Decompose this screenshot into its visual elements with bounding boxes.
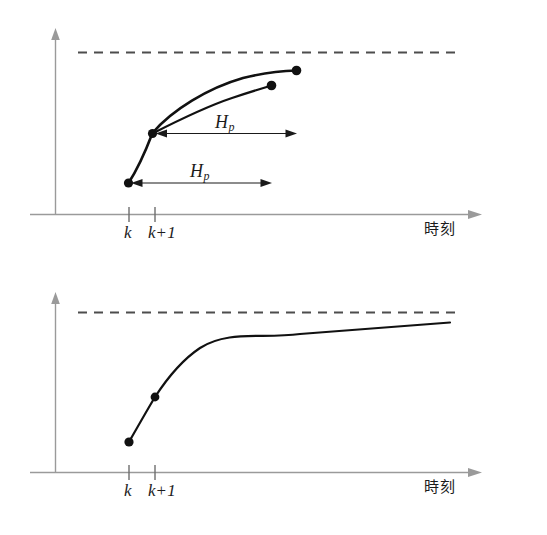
upper-horizon-subscript-top: p [228, 120, 235, 134]
upper-horizon-arrowhead-right-bottom [261, 179, 273, 187]
upper-x-axis-arrowhead [468, 210, 482, 219]
upper-horizon-arrowhead-right-top [286, 130, 298, 138]
lower-tick-k-plus-1-lhs: k [148, 481, 156, 500]
upper-horizon-label-bottom: Hp [190, 162, 210, 182]
upper-horizon-subscript-bottom: p [203, 169, 210, 183]
lower-tick-label-k: k [124, 482, 132, 499]
upper-tick-label-k: k [124, 224, 132, 241]
upper-panel-graphics [30, 28, 482, 222]
upper-horizon-symbol-bottom: H [190, 161, 203, 181]
upper-prediction-curve-from-k-plus-1 [153, 86, 272, 134]
lower-response-curve [129, 323, 450, 443]
lower-tick-k-plus-1-rhs: 1 [167, 481, 176, 500]
figure-canvas [0, 0, 547, 535]
upper-tick-label-k-plus-1: k+1 [148, 224, 176, 241]
lower-panel-graphics [30, 292, 482, 480]
lower-tick-k-plus-1-operator: + [156, 481, 168, 500]
upper-x-axis-title: 時刻 [424, 222, 455, 237]
lower-tick-label-k-plus-1: k+1 [148, 482, 176, 499]
upper-marker-endpoint-from-k [292, 66, 302, 76]
mpc-receding-horizon-figure: k k+1 時刻 Hp Hp k k+1 時刻 [0, 0, 547, 535]
upper-horizon-arrowhead-left-bottom [131, 179, 143, 187]
upper-y-axis-arrowhead [51, 28, 60, 40]
lower-y-axis-arrowhead [51, 292, 60, 304]
lower-marker-k-plus-1 [151, 393, 160, 402]
upper-tick-k-plus-1-operator: + [156, 223, 168, 242]
lower-x-axis-title: 時刻 [424, 480, 455, 495]
upper-horizon-symbol-top: H [215, 112, 228, 132]
upper-tick-k-plus-1-rhs: 1 [167, 223, 176, 242]
lower-x-axis-arrowhead [468, 468, 482, 477]
upper-tick-k-plus-1-lhs: k [148, 223, 156, 242]
upper-marker-endpoint-from-k-plus-1 [267, 81, 277, 91]
lower-marker-k [124, 437, 133, 446]
upper-horizon-label-top: Hp [215, 113, 235, 133]
